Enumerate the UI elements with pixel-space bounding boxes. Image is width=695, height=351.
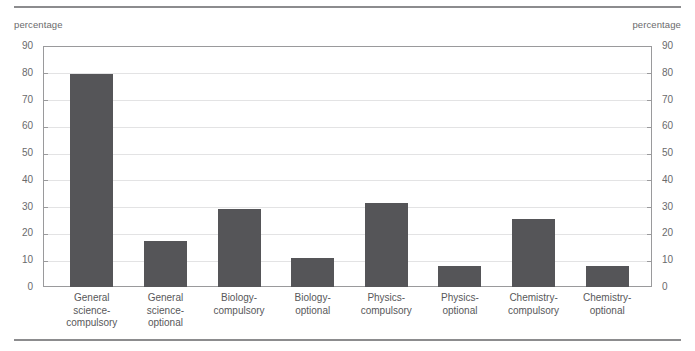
- y-axis-tick-label: 80: [3, 68, 33, 78]
- bar-series: [43, 46, 652, 287]
- bar: [70, 74, 113, 287]
- bar: [218, 209, 261, 287]
- y2-axis-tick-label: 0: [662, 282, 692, 292]
- bar: [144, 241, 187, 287]
- y2-axis-tick-label: 30: [662, 202, 692, 212]
- y-axis-tick-label: 40: [3, 175, 33, 185]
- category-label: Chemistry- optional: [557, 292, 657, 317]
- bottom-divider-rule: [14, 339, 681, 341]
- y-axis-tick-label: 50: [3, 148, 33, 158]
- right-axis-caption: percentage: [632, 19, 681, 30]
- y2-axis-tick-label: 50: [662, 148, 692, 158]
- y2-axis-tick-label: 80: [662, 68, 692, 78]
- left-axis-caption: percentage: [14, 19, 63, 30]
- y2-axis-tick-label: 90: [662, 41, 692, 51]
- y2-axis-tick-label: 60: [662, 121, 692, 131]
- y-axis-tick-label: 0: [3, 282, 33, 292]
- bar: [291, 258, 334, 287]
- bar-chart-figure: percentage percentage General science- c…: [0, 0, 695, 351]
- y-axis-tick-label: 30: [3, 202, 33, 212]
- y2-axis-tick-label: 40: [662, 175, 692, 185]
- y-axis-tick-label: 10: [3, 255, 33, 265]
- bar: [365, 203, 408, 287]
- category-axis-labels: General science- compulsoryGeneral scien…: [43, 292, 652, 338]
- y2-axis-tick-label: 10: [662, 255, 692, 265]
- y-axis-tick-label: 70: [3, 95, 33, 105]
- y2-axis-tick-label: 70: [662, 95, 692, 105]
- y2-axis-tick-label: 20: [662, 228, 692, 238]
- y-axis-tick-label: 20: [3, 228, 33, 238]
- bar: [512, 219, 555, 287]
- bar: [586, 266, 629, 287]
- bar: [438, 266, 481, 287]
- y-axis-tick-label: 60: [3, 121, 33, 131]
- y-axis-tick-label: 90: [3, 41, 33, 51]
- top-divider-rule: [14, 6, 681, 8]
